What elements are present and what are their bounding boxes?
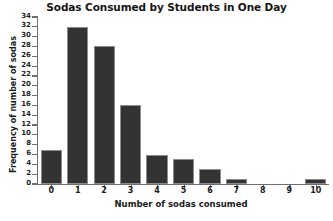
y-tick-mark	[32, 183, 37, 184]
y-tick-mark	[32, 66, 37, 67]
y-tick-mark	[32, 174, 37, 175]
bar	[120, 105, 141, 184]
x-tick-label: 3	[119, 186, 143, 195]
x-tick-label: 1	[66, 186, 90, 195]
y-tick-label: 16	[21, 100, 31, 108]
y-tick-mark	[32, 36, 37, 37]
x-tick-label: 5	[172, 186, 196, 195]
x-tick-label: 8	[251, 186, 275, 195]
y-tick-label: 14	[21, 110, 31, 118]
x-tick-label: 4	[145, 186, 169, 195]
y-tick-label: 10	[21, 129, 31, 137]
y-tick-mark	[32, 46, 37, 47]
y-tick-mark	[32, 26, 37, 27]
x-tick-label: 0	[39, 186, 63, 195]
bar	[41, 150, 62, 184]
y-tick-mark	[32, 164, 37, 165]
y-tick-label: 0	[26, 179, 31, 187]
y-tick-mark	[32, 144, 37, 145]
x-tick-label: 9	[277, 186, 301, 195]
y-tick-label: 8	[26, 139, 31, 147]
y-tick-label: 2	[26, 169, 31, 177]
bar	[94, 46, 115, 184]
y-tick-label: 22	[21, 70, 31, 78]
bar	[226, 179, 247, 184]
plot-area	[38, 17, 329, 184]
y-tick-label: 12	[21, 120, 31, 128]
y-tick-mark	[32, 75, 37, 76]
y-tick-mark	[32, 56, 37, 57]
y-tick-label: 26	[21, 51, 31, 59]
y-tick-mark	[32, 105, 37, 106]
y-tick-label: 6	[26, 149, 31, 157]
x-tick-label: 2	[92, 186, 116, 195]
y-tick-mark	[32, 95, 37, 96]
y-tick-label: 18	[21, 90, 31, 98]
y-axis-title: Frequency of number of sodas	[9, 30, 18, 180]
y-tick-label: 4	[26, 159, 31, 167]
y-tick-label: 32	[21, 21, 31, 29]
bar-chart: Sodas Consumed by Students in One Day Fr…	[0, 0, 333, 221]
chart-title: Sodas Consumed by Students in One Day	[0, 1, 333, 13]
y-tick-label: 20	[21, 80, 31, 88]
y-tick-mark	[32, 16, 37, 17]
y-tick-mark	[32, 85, 37, 86]
y-tick-label: 24	[21, 61, 31, 69]
y-tick-label: 34	[21, 12, 31, 20]
bar	[173, 159, 194, 184]
bar	[67, 27, 88, 184]
bar	[146, 155, 167, 184]
x-tick-label: 7	[224, 186, 248, 195]
x-axis-title: Number of sodas consumed	[38, 199, 324, 209]
y-tick-label: 30	[21, 31, 31, 39]
bar	[305, 179, 326, 184]
x-tick-label: 6	[198, 186, 222, 195]
bar	[199, 169, 220, 184]
y-tick-mark	[32, 154, 37, 155]
y-tick-label: 28	[21, 41, 31, 49]
y-tick-mark	[32, 115, 37, 116]
y-tick-mark	[32, 124, 37, 125]
x-tick-label: 10	[304, 186, 328, 195]
y-tick-mark	[32, 134, 37, 135]
